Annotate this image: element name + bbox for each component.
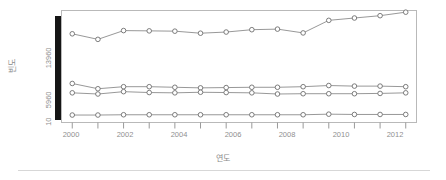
data-point (173, 29, 178, 34)
data-point (378, 112, 383, 117)
data-point (198, 112, 203, 117)
x-tick-label-2004: 2004 (166, 130, 192, 139)
bottom-divider (18, 170, 430, 171)
data-series-layer (70, 10, 408, 117)
y-tick-label-2: 13960 (44, 48, 53, 90)
data-point (96, 113, 101, 118)
data-point (326, 112, 331, 117)
data-point (403, 112, 408, 117)
data-point (70, 91, 75, 96)
data-point (275, 85, 280, 90)
data-point (198, 31, 203, 36)
x-axis-ticks (72, 123, 405, 129)
data-point (96, 86, 101, 91)
data-point (121, 84, 126, 89)
series-series-1 (70, 10, 408, 42)
data-point (198, 90, 203, 95)
data-point (275, 92, 280, 97)
series-series-4 (70, 112, 408, 117)
data-point (275, 112, 280, 117)
data-point (301, 31, 306, 36)
data-point (96, 92, 101, 97)
data-point (121, 89, 126, 94)
chart-figure: 빈도 연도 10 5960 13960 2000 2002 2004 2006 … (0, 0, 446, 180)
data-point (403, 84, 408, 89)
data-point (352, 112, 357, 117)
y-axis-title: 빈도 (6, 46, 17, 86)
data-point (301, 91, 306, 96)
series-series-3 (70, 89, 408, 96)
data-point (147, 112, 152, 117)
data-point (250, 112, 255, 117)
data-point (250, 27, 255, 32)
series-series-2 (70, 81, 408, 91)
data-point (352, 91, 357, 96)
data-point (275, 27, 280, 32)
y-tick-label-1: 5960 (44, 92, 53, 129)
y-axis-bar (55, 16, 61, 120)
data-point (301, 84, 306, 89)
data-point (378, 84, 383, 89)
data-point (70, 113, 75, 118)
x-axis-title: 연도 (0, 152, 446, 163)
data-point (378, 91, 383, 96)
x-tick-label-2012: 2012 (382, 130, 408, 139)
x-tick-label-2000: 2000 (58, 130, 84, 139)
data-point (121, 28, 126, 33)
data-point (147, 90, 152, 95)
x-tick-label-2010: 2010 (328, 130, 354, 139)
data-point (224, 85, 229, 90)
x-tick-label-2008: 2008 (274, 130, 300, 139)
data-point (326, 91, 331, 96)
data-point (224, 30, 229, 35)
data-point (147, 84, 152, 89)
data-point (326, 18, 331, 23)
data-point (378, 13, 383, 18)
data-point (147, 29, 152, 34)
data-point (403, 91, 408, 96)
data-point (301, 112, 306, 117)
plot-frame (62, 11, 417, 123)
data-point (121, 112, 126, 117)
data-point (326, 83, 331, 88)
data-point (352, 16, 357, 21)
data-point (70, 81, 75, 86)
x-tick-label-2002: 2002 (112, 130, 138, 139)
data-point (224, 90, 229, 95)
data-point (173, 112, 178, 117)
data-point (70, 32, 75, 37)
data-point (198, 86, 203, 91)
x-tick-label-2006: 2006 (220, 130, 246, 139)
data-point (96, 37, 101, 42)
data-point (173, 91, 178, 96)
data-point (173, 85, 178, 90)
data-point (250, 85, 255, 90)
data-point (224, 112, 229, 117)
data-point (250, 91, 255, 96)
data-point (352, 84, 357, 89)
data-point (403, 10, 408, 15)
